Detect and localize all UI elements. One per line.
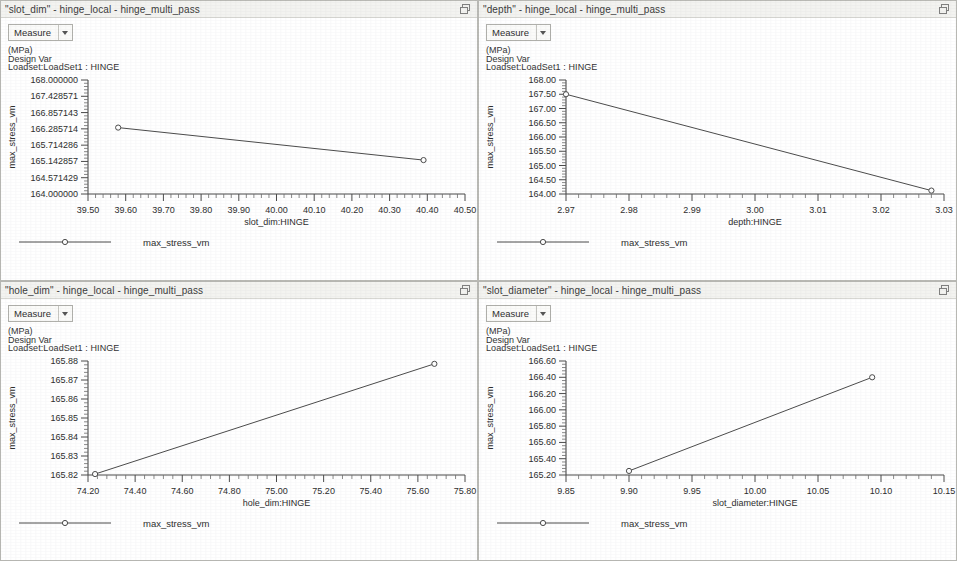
panel-toolbar: Measure: [479, 299, 956, 324]
loadset-label: Loadset:LoadSet1 : HINGE: [486, 63, 956, 72]
y-axis-title: max_stress_vm: [7, 105, 17, 168]
y-tick-label: 165.142857: [30, 156, 78, 166]
x-axis-title: slot_dim:HINGE: [244, 217, 309, 227]
x-tick-label: 75.60: [407, 486, 430, 496]
x-tick-label: 39.60: [114, 205, 137, 215]
y-tick-label: 166.00: [528, 132, 556, 142]
y-tick-label: 166.40: [528, 372, 556, 382]
x-tick-label: 9.90: [620, 486, 638, 496]
x-tick-label: 3.01: [809, 205, 827, 215]
legend-label: max_stress_vm: [621, 237, 688, 248]
y-tick-label: 165.87: [50, 375, 78, 385]
data-point-marker[interactable]: [626, 468, 631, 473]
chart-panel-slot-diameter: "slot_diameter" - hinge_local - hinge_mu…: [478, 281, 957, 561]
units-label: (MPa): [486, 46, 956, 55]
measure-dropdown[interactable]: Measure: [486, 305, 551, 322]
x-tick-label: 40.10: [303, 205, 326, 215]
y-tick-label: 168.000000: [30, 75, 78, 85]
panel-metadata: (MPa) Design Var Loadset:LoadSet1 : HING…: [479, 324, 956, 353]
panel-metadata: (MPa) Design Var Loadset:LoadSet1 : HING…: [479, 43, 956, 72]
data-point-marker[interactable]: [432, 361, 437, 366]
x-tick-label: 40.30: [378, 205, 401, 215]
plot-area: 168.000000167.428571166.857143166.285714…: [1, 72, 477, 270]
x-tick-label: 3.03: [935, 205, 953, 215]
y-tick-label: 165.82: [50, 470, 78, 480]
panel-toolbar: Measure: [479, 18, 956, 43]
y-tick-label: 166.50: [528, 117, 556, 127]
plot-area: 165.88165.87165.86165.85165.84165.83165.…: [1, 353, 477, 550]
x-tick-label: 9.85: [557, 486, 575, 496]
series-line: [95, 363, 434, 473]
x-tick-label: 3.00: [746, 205, 764, 215]
panel-metadata: (MPa) Design Var Loadset:LoadSet1 : HING…: [1, 43, 477, 72]
data-point-marker[interactable]: [92, 471, 97, 476]
y-tick-label: 168.00: [528, 75, 556, 85]
chart-panel-hole-dim: "hole_dim" - hinge_local - hinge_multi_p…: [0, 281, 478, 561]
y-axis-title: max_stress_vm: [485, 105, 495, 168]
x-axis-title: hole_dim:HINGE: [243, 498, 311, 508]
y-tick-label: 166.00: [528, 404, 556, 414]
restore-window-icon[interactable]: [460, 4, 471, 15]
chevron-down-icon[interactable]: [536, 25, 550, 40]
y-tick-label: 165.86: [50, 394, 78, 404]
panel-title: "slot_dim" - hinge_local - hinge_multi_p…: [5, 4, 200, 15]
y-tick-label: 164.00: [528, 189, 556, 199]
x-tick-label: 39.50: [77, 205, 100, 215]
x-tick-label: 74.60: [171, 486, 194, 496]
x-tick-label: 74.40: [124, 486, 147, 496]
measure-dropdown-label: Measure: [487, 306, 536, 321]
data-point-marker[interactable]: [421, 157, 426, 162]
x-tick-label: 75.00: [265, 486, 288, 496]
restore-window-icon[interactable]: [939, 285, 950, 296]
x-tick-label: 2.97: [557, 205, 575, 215]
y-tick-label: 165.83: [50, 451, 78, 461]
y-tick-label: 165.80: [528, 421, 556, 431]
y-tick-label: 165.50: [528, 146, 556, 156]
y-tick-label: 165.88: [50, 356, 78, 366]
x-tick-label: 75.80: [454, 486, 477, 496]
chevron-down-icon[interactable]: [58, 306, 72, 321]
loadset-label: Loadset:LoadSet1 : HINGE: [486, 344, 956, 353]
units-label: (MPa): [8, 327, 477, 336]
x-tick-label: 3.02: [872, 205, 890, 215]
y-tick-label: 166.285714: [30, 123, 78, 133]
measure-dropdown-label: Measure: [487, 25, 536, 40]
x-axis-title: depth:HINGE: [728, 217, 782, 227]
panel-titlebar: "slot_dim" - hinge_local - hinge_multi_p…: [1, 1, 477, 18]
x-tick-label: 10.15: [933, 486, 956, 496]
legend-marker-icon: [62, 520, 67, 525]
measure-dropdown-label: Measure: [9, 306, 58, 321]
plot-area: 168.00167.50167.00166.50166.00165.50165.…: [479, 72, 956, 270]
series-line: [566, 94, 931, 190]
chevron-down-icon[interactable]: [536, 306, 550, 321]
data-point-marker[interactable]: [563, 91, 568, 96]
loadset-label: Loadset:LoadSet1 : HINGE: [8, 63, 477, 72]
y-tick-label: 166.20: [528, 388, 556, 398]
panel-toolbar: Measure: [1, 299, 477, 324]
y-axis-title: max_stress_vm: [485, 386, 495, 449]
data-point-marker[interactable]: [116, 124, 121, 129]
panel-title: "slot_diameter" - hinge_local - hinge_mu…: [483, 285, 701, 296]
y-tick-label: 164.571429: [30, 172, 78, 182]
x-tick-label: 40.00: [265, 205, 288, 215]
data-point-marker[interactable]: [870, 374, 875, 379]
loadset-label: Loadset:LoadSet1 : HINGE: [8, 344, 477, 353]
legend-marker-icon: [540, 239, 545, 244]
data-point-marker[interactable]: [929, 187, 934, 192]
measure-dropdown[interactable]: Measure: [486, 24, 551, 41]
measure-dropdown[interactable]: Measure: [8, 24, 73, 41]
restore-window-icon[interactable]: [939, 4, 950, 15]
y-tick-label: 164.000000: [30, 189, 78, 199]
legend-label: max_stress_vm: [143, 237, 210, 248]
panel-metadata: (MPa) Design Var Loadset:LoadSet1 : HING…: [1, 324, 477, 353]
y-tick-label: 167.50: [528, 89, 556, 99]
x-tick-label: 10.05: [807, 486, 830, 496]
measure-dropdown[interactable]: Measure: [8, 305, 73, 322]
restore-window-icon[interactable]: [460, 285, 471, 296]
y-tick-label: 165.84: [50, 432, 78, 442]
legend-marker-icon: [62, 239, 67, 244]
plot-svg: 168.000000167.428571166.857143166.285714…: [1, 72, 477, 270]
plot-area: 166.60166.40166.20166.00165.80165.60165.…: [479, 353, 956, 550]
chevron-down-icon[interactable]: [58, 25, 72, 40]
x-tick-label: 9.95: [683, 486, 701, 496]
